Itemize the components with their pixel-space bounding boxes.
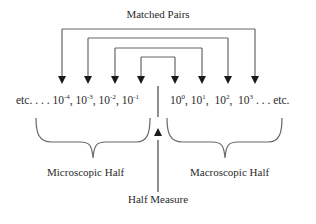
arrow-down-icon — [251, 76, 259, 84]
arrow-up-icon — [154, 128, 162, 136]
arrow-down-icon — [198, 76, 206, 84]
macroscopic-half-label: Macroscopic Half — [190, 166, 269, 178]
term-1: 101 — [191, 94, 206, 106]
diagram-lines — [0, 0, 316, 224]
right-suffix: . . . etc. — [256, 94, 290, 106]
left-prefix: etc. . . . — [16, 94, 50, 106]
arrow-down-icon — [58, 76, 66, 84]
arrow-down-icon — [224, 76, 232, 84]
microscopic-sequence: etc. . . . 10-4, 10-3, 10-2, 10-1 — [16, 93, 139, 106]
left-brace — [36, 118, 150, 158]
microscopic-half-label: Microscopic Half — [47, 166, 124, 178]
arrow-down-icon — [111, 76, 119, 84]
arrow-down-icon — [137, 76, 145, 84]
term-2: 102 — [214, 94, 229, 106]
arrow-down-icon — [171, 76, 179, 84]
macroscopic-sequence: 100, 101, 102, 103 . . . etc. — [170, 93, 289, 106]
term-neg1: 10-1 — [122, 94, 139, 106]
term-neg3: 10-3 — [76, 94, 93, 106]
term-neg4: 10-4 — [52, 94, 69, 106]
term-neg2: 10-2 — [99, 94, 116, 106]
half-measure-label: Half Measure — [128, 193, 188, 205]
term-3: 103 — [238, 94, 253, 106]
arrow-down-icon — [84, 76, 92, 84]
term-0: 100 — [170, 94, 185, 106]
diagram-title: Matched Pairs — [0, 8, 316, 20]
right-brace — [167, 118, 282, 158]
